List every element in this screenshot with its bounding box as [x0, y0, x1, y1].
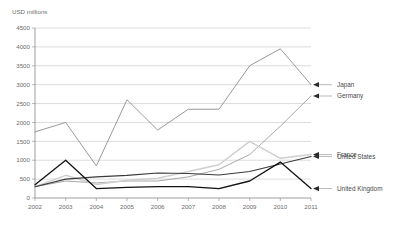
y-axis-tick-label: 2000 [16, 119, 30, 126]
x-axis-tick-label: 2011 [304, 203, 318, 210]
y-axis-tick-label: 500 [20, 175, 31, 182]
chart-container: USD millions0500100015002000250030003500… [0, 0, 399, 225]
x-axis-tick-label: 2010 [273, 203, 287, 210]
x-axis-tick-label: 2005 [120, 203, 134, 210]
y-axis-tick-label: 4000 [16, 43, 30, 50]
annotation-arrow-icon [313, 82, 319, 87]
series-line-france [35, 141, 311, 186]
line-chart: USD millions0500100015002000250030003500… [0, 0, 399, 225]
annotation-label-united-states: United States [337, 153, 375, 160]
y-axis-tick-label: 4500 [16, 24, 30, 31]
annotation-label-germany: Germany [337, 92, 364, 100]
x-axis-tick-label: 2009 [243, 203, 257, 210]
y-axis-tick-label: 3500 [16, 62, 30, 69]
x-axis-tick-label: 2007 [181, 203, 195, 210]
annotation-arrow-icon [313, 186, 319, 191]
x-axis-tick-label: 2008 [212, 203, 226, 210]
y-axis-tick-label: 1500 [16, 138, 30, 145]
x-axis-tick-label: 2003 [59, 203, 73, 210]
annotation-label-japan: Japan [337, 81, 355, 89]
x-axis-tick-label: 2006 [151, 203, 165, 210]
x-axis-tick-label: 2002 [28, 203, 42, 210]
y-axis-unit-label: USD millions [12, 8, 47, 15]
y-axis-tick-label: 3000 [16, 81, 30, 88]
series-line-united-states [35, 156, 311, 186]
annotation-arrow-icon [313, 93, 319, 98]
x-axis-tick-label: 2004 [89, 203, 103, 210]
y-axis-tick-label: 0 [27, 194, 31, 201]
y-axis-tick-label: 1000 [16, 156, 30, 163]
annotation-label-united-kingdom: United Kingdom [337, 185, 382, 193]
y-axis-tick-label: 2500 [16, 100, 30, 107]
series-line-japan [35, 49, 311, 166]
